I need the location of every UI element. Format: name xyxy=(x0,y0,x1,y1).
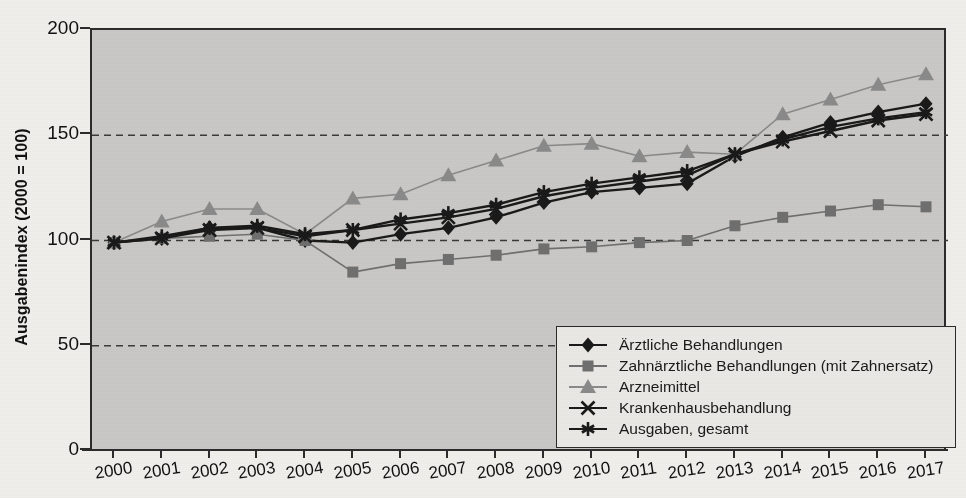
legend-item-label: Zahnärztliche Behandlungen (mit Zahnersa… xyxy=(619,357,933,375)
data-point-triangle xyxy=(393,186,409,200)
x-tick-label: 2010 xyxy=(571,458,611,484)
x-axis-line xyxy=(82,449,948,451)
legend-marker-diamond-icon xyxy=(567,336,609,354)
data-point-square xyxy=(395,258,406,269)
x-tick-label: 2017 xyxy=(905,458,945,484)
x-tick-label: 2009 xyxy=(523,458,563,484)
data-point-square xyxy=(347,267,358,278)
x-tick-label: 2011 xyxy=(619,458,658,483)
x-tick-label: 2013 xyxy=(714,458,754,484)
legend-item[interactable]: Arzneimittel xyxy=(567,376,941,397)
x-tick-label: 2012 xyxy=(666,458,706,484)
data-point-square xyxy=(825,206,836,217)
data-point-square xyxy=(777,212,788,223)
y-tick-mark xyxy=(80,132,90,134)
legend-item-label: Arzneimittel xyxy=(619,378,700,396)
x-tick-label: 2008 xyxy=(475,458,515,484)
data-point-square xyxy=(634,237,645,248)
data-point-square xyxy=(873,199,884,210)
x-tick-label: 2005 xyxy=(332,458,372,484)
y-tick-mark xyxy=(80,238,90,240)
legend-marker-cross-icon xyxy=(567,399,609,417)
chart-legend: Ärztliche BehandlungenZahnärztliche Beha… xyxy=(556,326,956,448)
legend-item-label: Ausgaben, gesamt xyxy=(619,420,748,438)
data-point-square xyxy=(583,360,594,371)
legend-item[interactable]: Zahnärztliche Behandlungen (mit Zahnersa… xyxy=(567,355,941,376)
data-point-diamond xyxy=(582,337,595,352)
data-point-square xyxy=(538,243,549,254)
legend-marker-triangle-icon xyxy=(567,378,609,396)
expenditure-index-chart: Ausgabenindex (2000 = 100) 050100150200 … xyxy=(0,0,966,498)
legend-item-label: Krankenhausbehandlung xyxy=(619,399,791,417)
x-tick-label: 2007 xyxy=(428,458,468,484)
x-tick-label: 2002 xyxy=(189,458,229,484)
y-tick-mark xyxy=(80,27,90,29)
data-point-square xyxy=(491,250,502,261)
x-tick-label: 2001 xyxy=(141,458,181,484)
data-point-triangle xyxy=(584,136,600,150)
x-tick-label: 2015 xyxy=(810,458,850,484)
data-point-triangle xyxy=(679,144,695,158)
data-point-square xyxy=(586,241,597,252)
series-line xyxy=(114,74,926,242)
legend-item[interactable]: Ärztliche Behandlungen xyxy=(567,334,941,355)
series-line xyxy=(114,104,926,243)
data-point-square xyxy=(443,254,454,265)
data-point-triangle xyxy=(202,201,218,215)
data-point-square xyxy=(921,201,932,212)
data-point-triangle xyxy=(918,66,934,80)
data-point-square xyxy=(729,220,740,231)
legend-marker-square-icon xyxy=(567,357,609,375)
series-line xyxy=(114,205,926,272)
y-axis-ticks: 050100150200 xyxy=(0,0,88,498)
legend-item[interactable]: Krankenhausbehandlung xyxy=(567,397,941,418)
y-tick-mark xyxy=(80,343,90,345)
x-tick-label: 2016 xyxy=(858,458,898,484)
x-tick-label: 2000 xyxy=(93,458,133,484)
x-tick-label: 2006 xyxy=(380,458,420,484)
data-point-triangle xyxy=(249,201,265,215)
x-tick-label: 2014 xyxy=(762,458,802,484)
legend-item[interactable]: Ausgaben, gesamt xyxy=(567,418,941,439)
legend-marker-asterisk-icon xyxy=(567,420,609,438)
legend-item-label: Ärztliche Behandlungen xyxy=(619,336,783,354)
x-tick-label: 2004 xyxy=(284,458,324,484)
data-point-diamond xyxy=(346,235,359,250)
x-tick-label: 2003 xyxy=(237,458,277,484)
data-point-square xyxy=(682,235,693,246)
